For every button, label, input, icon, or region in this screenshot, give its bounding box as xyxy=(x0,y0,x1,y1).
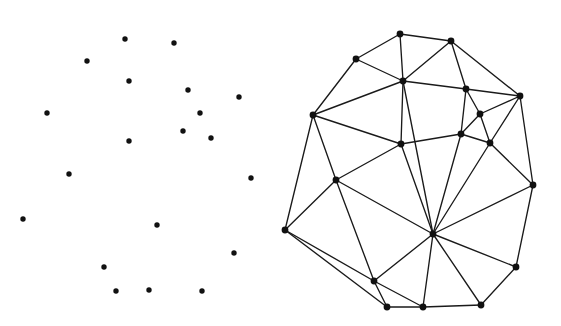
scatter-point xyxy=(126,78,131,83)
scatter-point xyxy=(185,87,190,92)
scatter-point xyxy=(113,288,118,293)
graph-vertex xyxy=(487,140,494,147)
graph-vertex xyxy=(530,182,537,189)
scatter-point xyxy=(171,40,176,45)
graph-vertex xyxy=(310,112,317,119)
scatter-point xyxy=(208,135,213,140)
graph-vertex xyxy=(430,231,437,238)
scatter-point xyxy=(20,216,25,221)
graph-vertex xyxy=(384,304,391,311)
graph-vertex xyxy=(517,93,524,100)
graph-vertex xyxy=(397,31,404,38)
scatter-point xyxy=(236,94,241,99)
graph-vertex xyxy=(463,86,470,93)
graph-vertex xyxy=(400,78,407,85)
graph-vertex xyxy=(333,177,340,184)
scatter-point xyxy=(101,264,106,269)
scatter-point xyxy=(84,58,89,63)
graph-vertex xyxy=(458,131,465,138)
graph-vertex xyxy=(477,111,484,118)
figure-svg xyxy=(0,0,561,326)
scatter-point xyxy=(122,36,127,41)
graph-vertex xyxy=(282,227,289,234)
scatter-point xyxy=(197,110,202,115)
graph-vertex xyxy=(420,304,427,311)
scatter-point xyxy=(126,138,131,143)
scatter-point xyxy=(199,288,204,293)
graph-vertex xyxy=(353,56,360,63)
scatter-point xyxy=(180,128,185,133)
figure-canvas xyxy=(0,0,561,326)
graph-vertex xyxy=(513,264,520,271)
scatter-point xyxy=(44,110,49,115)
graph-vertex xyxy=(448,38,455,45)
scatter-point xyxy=(154,222,159,227)
scatter-point xyxy=(146,287,151,292)
scatter-point xyxy=(66,171,71,176)
graph-vertex xyxy=(371,278,378,285)
graph-vertex xyxy=(478,302,485,309)
scatter-point xyxy=(231,250,236,255)
graph-vertex xyxy=(398,141,405,148)
scatter-point xyxy=(248,175,253,180)
